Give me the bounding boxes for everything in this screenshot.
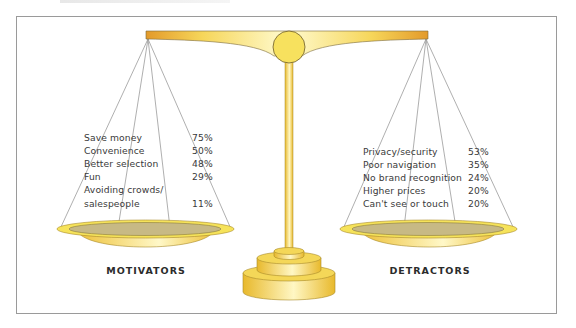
motivator-label: Avoiding crowds/ [84, 184, 163, 196]
motivator-value: 75% [192, 132, 213, 144]
left-pan [57, 220, 234, 247]
detractor-label: Higher prices [363, 185, 425, 197]
scale-pole [285, 60, 293, 260]
motivator-label: Convenience [84, 145, 145, 157]
motivator-value: 29% [192, 171, 213, 183]
detractor-label: Privacy/security [363, 146, 438, 158]
detractor-value: 20% [468, 185, 489, 197]
detractor-value: 53% [468, 146, 489, 158]
detractor-value: 20% [468, 198, 489, 210]
motivator-value: 11% [192, 198, 213, 210]
motivator-value: 48% [192, 158, 213, 170]
motivators-caption: MOTIVATORS [66, 265, 226, 276]
motivator-label: Fun [84, 171, 101, 183]
detractors-caption: DETRACTORS [350, 265, 510, 276]
detractor-label: Can't see or touch [363, 198, 449, 210]
detractor-label: No brand recognition [363, 172, 462, 184]
scale-pivot [273, 31, 305, 63]
motivator-value: 50% [192, 145, 213, 157]
motivator-label: Better selection [84, 158, 158, 170]
detractor-value: 35% [468, 159, 489, 171]
scale-base [243, 248, 335, 301]
detractor-value: 24% [468, 172, 489, 184]
motivator-label: Save money [84, 132, 142, 144]
right-pan [340, 220, 517, 247]
detractor-label: Poor navigation [363, 159, 436, 171]
motivator-label: salespeople [84, 198, 140, 210]
